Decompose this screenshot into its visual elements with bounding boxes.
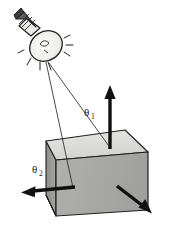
theta2-subscript: 2	[39, 169, 43, 178]
theta2-symbol: θ	[32, 163, 37, 175]
cube-front-face	[56, 152, 148, 216]
reflection-diagram: θ 1 θ 2	[0, 0, 180, 243]
theta1-symbol: θ	[84, 106, 89, 118]
cube	[46, 130, 148, 216]
figure-container: θ 1 θ 2	[0, 0, 180, 243]
theta1-subscript: 1	[91, 112, 95, 121]
